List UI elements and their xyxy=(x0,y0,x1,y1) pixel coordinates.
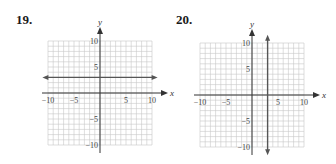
x-tick-label: 10 xyxy=(300,98,308,107)
arrowhead-icon xyxy=(265,35,270,41)
y-tick-label: 5 xyxy=(94,63,98,72)
x-tick-label: −5 xyxy=(222,98,231,107)
y-tick-label: −5 xyxy=(89,115,98,124)
y-tick-label: 10 xyxy=(242,39,250,48)
x-axis-arrow-icon xyxy=(313,92,320,98)
problem-19: 19. xy−10−5510105−5−10 xyxy=(0,0,168,164)
x-tick-label: 5 xyxy=(124,96,128,105)
arrowhead-icon xyxy=(265,149,270,155)
coordinate-plane-19: xy−10−5510105−5−10 xyxy=(0,0,168,164)
x-tick-label: −5 xyxy=(70,96,79,105)
y-tick-label: −10 xyxy=(85,141,98,150)
problem-20: 20. xy−10−5510105−5−10 xyxy=(168,0,336,164)
x-tick-label: 10 xyxy=(148,96,156,105)
coordinate-plane-20: xy−10−5510105−5−10 xyxy=(168,0,336,164)
x-tick-label: −10 xyxy=(194,98,207,107)
x-axis-arrow-icon xyxy=(161,90,168,96)
arrowhead-icon xyxy=(152,75,158,80)
x-tick-label: 5 xyxy=(276,98,280,107)
y-tick-label: 5 xyxy=(246,65,250,74)
x-tick-label: −10 xyxy=(42,96,55,105)
y-tick-label: −5 xyxy=(241,117,250,126)
x-axis-label: x xyxy=(321,90,326,100)
y-tick-label: −10 xyxy=(237,143,250,152)
arrowhead-icon xyxy=(42,75,48,80)
y-axis-label: y xyxy=(97,17,102,27)
y-axis-label: y xyxy=(249,19,254,29)
y-axis-arrow-icon xyxy=(97,27,103,34)
y-tick-label: 10 xyxy=(90,37,98,46)
y-axis-arrow-icon xyxy=(249,29,255,36)
